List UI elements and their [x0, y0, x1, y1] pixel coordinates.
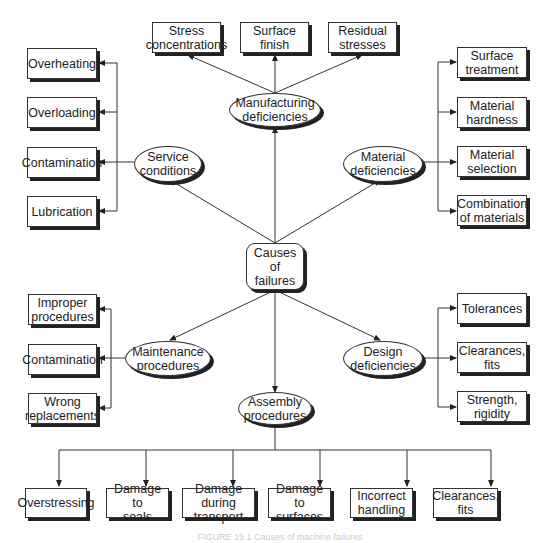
- leaf-surface-treatment: Surface treatment: [457, 47, 527, 78]
- leaf-overloading: Overloading: [27, 97, 97, 128]
- leaf-contamination-maintenance: Contamination: [28, 344, 97, 375]
- leaf-damage-to-surfaces: Damage to surfaces: [268, 488, 331, 518]
- leaf-damage-to-seals: Damage to seals: [106, 488, 169, 518]
- node-service-conditions: Service conditions: [134, 146, 202, 182]
- leaf-surface-finish: Surface finish: [240, 22, 309, 53]
- leaf-incorrect-handling: Incorrect handling: [350, 488, 413, 518]
- node-maintenance-procedures: Maintenance procedures: [125, 341, 211, 376]
- leaf-improper-procedures: Improper procedures: [28, 294, 97, 325]
- leaf-wrong-replacements: Wrong replacements: [28, 393, 97, 424]
- leaf-tolerances: Tolerances: [457, 293, 527, 324]
- node-design-deficiencies: Design deficiencies: [343, 341, 423, 376]
- node-manufacturing-deficiencies: Manufacturing deficiencies: [229, 93, 321, 127]
- leaf-strength-rigidity: Strength, rigidity: [457, 391, 527, 422]
- leaf-combination-of-materials: Combination of materials: [457, 195, 527, 226]
- leaf-clearances-fits-design: Clearances, fits: [457, 342, 527, 373]
- leaf-damage-during-transport: Damage during transport: [182, 488, 255, 518]
- leaf-material-selection: Material selection: [457, 146, 527, 177]
- leaf-residual-stresses: Residual stresses: [328, 22, 397, 53]
- node-causes-of-failures: Causes of failures: [246, 243, 304, 290]
- node-material-deficiencies: Material deficiencies: [343, 146, 423, 182]
- figure-caption: FIGURE 19.1 Causes of machine failures: [0, 532, 560, 542]
- leaf-overstressing: Overstressing: [25, 488, 87, 518]
- node-assembly-procedures: Assembly procedures: [238, 392, 312, 425]
- leaf-lubrication: Lubrication: [27, 196, 97, 227]
- leaf-stress-concentrations: Stress concentrations: [152, 22, 221, 53]
- leaf-contamination-service: Contamination: [27, 147, 97, 178]
- leaf-clearances-fits-assembly: Clearances, fits: [433, 488, 498, 518]
- leaf-material-hardness: Material hardness: [457, 97, 527, 128]
- leaf-overheating: Overheating: [27, 48, 97, 79]
